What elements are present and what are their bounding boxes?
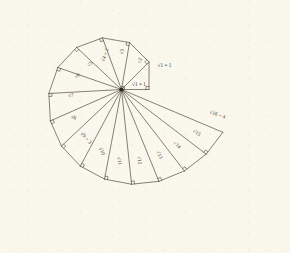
unit-leg-10: [80, 166, 104, 179]
unit-leg-14: [184, 154, 206, 171]
spiral-of-theodorus-diagram: √1 = 1√1 = 1√2√3√4 = 2√5√6√7√8√9 = 3√10√…: [0, 0, 290, 253]
unit-leg-7: [49, 93, 51, 120]
label-hyp-5: √5: [85, 59, 93, 67]
right-angle-marks-group: [49, 39, 208, 184]
radius-line-12: [122, 90, 132, 185]
radius-line-4: [102, 38, 121, 90]
right-angle-mark-14: [183, 167, 187, 169]
figure-canvas: √1 = 1√1 = 1√2√3√4 = 2√5√6√7√8√9 = 3√10√…: [0, 0, 290, 253]
radius-line-7: [49, 90, 122, 94]
origin-point: [119, 87, 123, 91]
unit-leg-8: [50, 121, 61, 146]
unit-leg-11: [105, 179, 132, 184]
unit-leg-4: [77, 38, 103, 48]
right-angle-mark-15: [204, 150, 208, 152]
unit-leg-6: [49, 67, 58, 93]
label-hyp-2: √2: [135, 56, 143, 64]
unit-leg-9: [61, 146, 80, 166]
label-hyp-11: √11: [116, 156, 124, 165]
unit-leg-13: [159, 171, 184, 181]
radius-line-6: [58, 67, 122, 89]
radius-line-5: [77, 47, 122, 89]
label-hyp-12: √12: [137, 156, 144, 165]
measurement-labels-group: √1 = 1√1 = 1√2√3√4 = 2√5√6√7√8√9 = 3√10√…: [68, 47, 227, 166]
label-hyp-16: √16 = 4: [209, 109, 227, 120]
label-hyp-10: √10: [98, 146, 107, 156]
right-angle-mark-9: [64, 144, 66, 148]
unit-leg-5: [58, 47, 77, 67]
radius-line-8: [50, 90, 121, 121]
right-angle-mark-2: [145, 60, 147, 64]
radius-line-13: [122, 90, 159, 182]
label-hyp-14: √14: [172, 140, 182, 150]
label-hyp-13: √13: [155, 149, 164, 159]
label-hyp-1: √1 = 1: [158, 62, 172, 68]
label-hyp-4: √4 = 2: [100, 47, 110, 62]
label-leg-1: √1 = 1: [132, 81, 146, 87]
radius-line-16: [122, 90, 223, 133]
label-hyp-6: √6: [73, 71, 81, 79]
label-hyp-8: √8: [70, 113, 78, 121]
label-hyp-15: √15: [192, 128, 202, 138]
right-angle-mark-5: [75, 49, 79, 51]
right-angle-mark-1: [146, 87, 149, 90]
unit-leg-12: [132, 181, 159, 184]
unit-leg-15: [206, 132, 223, 154]
right-angle-mark-7: [49, 93, 52, 96]
label-hyp-9: √9 = 3: [80, 130, 94, 145]
unit-leg-3: [102, 38, 129, 43]
label-hyp-7: √7: [68, 92, 74, 98]
label-hyp-3: √3: [118, 48, 125, 55]
